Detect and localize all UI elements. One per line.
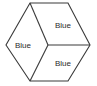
rhombus-label-top-right: Blue [55, 21, 71, 30]
rhombus-label-bottom-right: Blue [55, 59, 71, 68]
rhombus-label-left: Blue [15, 41, 31, 50]
hexagon-diagram: Blue Blue Blue [0, 0, 97, 86]
